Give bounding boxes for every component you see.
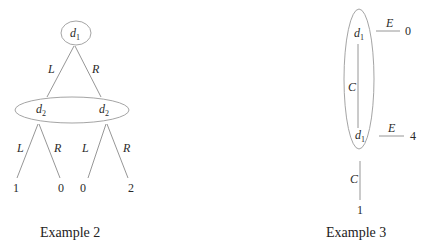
payoff-leaf-3: 0 <box>80 181 86 195</box>
payoff-leaf-2: 0 <box>58 181 64 195</box>
caption-example-3: Example 3 <box>326 225 386 240</box>
example-3: d1 C d1 E 0 E 4 C 1 Example 3 <box>326 9 416 240</box>
edge-label-C: C <box>348 80 357 94</box>
info-node-right-label: d2 <box>99 102 109 118</box>
payoff-terminal: 1 <box>357 203 363 217</box>
example-2: d1 L R d2 d2 L R 1 0 L R 0 2 Example 2 <box>13 21 134 240</box>
payoff-leaf-1: 1 <box>13 181 19 195</box>
edge-label-L: L <box>47 62 55 76</box>
edge-label-R: R <box>91 62 100 76</box>
edge-label-C: C <box>350 172 359 186</box>
payoff-exit-bottom: 4 <box>410 129 416 143</box>
payoff-exit-top: 0 <box>405 24 411 38</box>
edge-label-E: E <box>385 16 394 30</box>
edge-label-L: L <box>16 141 24 155</box>
info-node-left-label: d2 <box>36 102 46 118</box>
payoff-leaf-4: 2 <box>128 181 134 195</box>
edge-label-R: R <box>122 141 131 155</box>
information-set-ellipse <box>15 97 129 123</box>
info-node-top-label: d1 <box>354 26 364 42</box>
edge-label-E: E <box>387 121 396 135</box>
edge-label-L: L <box>81 141 89 155</box>
edge-label-R: R <box>53 141 62 155</box>
root-node-label: d1 <box>70 26 80 42</box>
info-node-bottom-label: d1 <box>355 128 365 144</box>
diagram-canvas: d1 L R d2 d2 L R 1 0 L R 0 2 Example 2 d… <box>0 0 421 251</box>
edge-right-node-L <box>88 124 106 178</box>
caption-example-2: Example 2 <box>40 225 100 240</box>
